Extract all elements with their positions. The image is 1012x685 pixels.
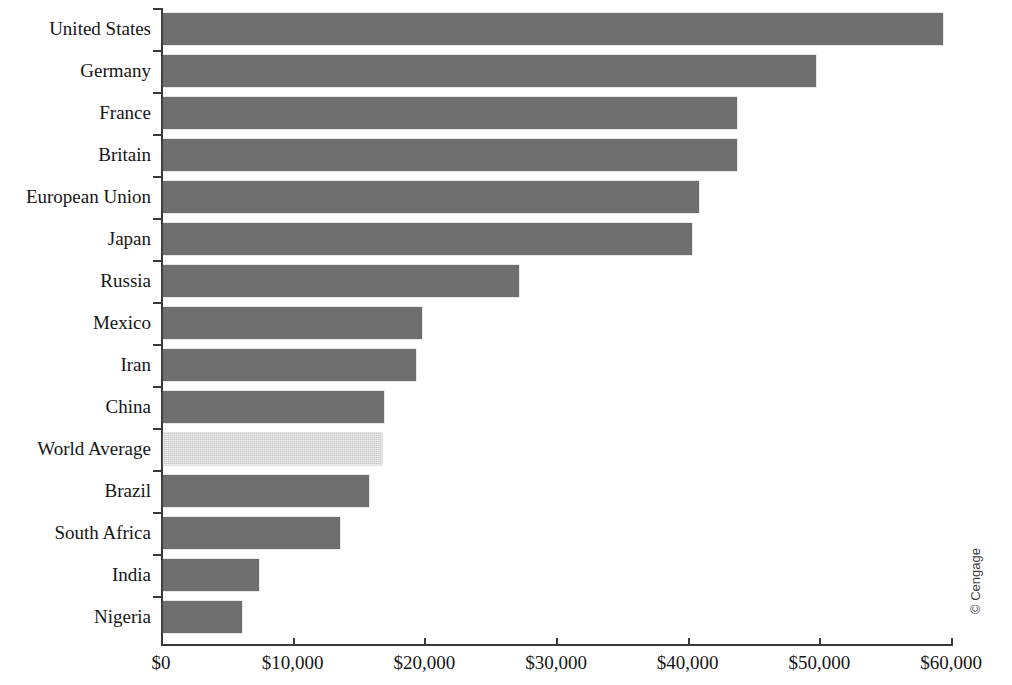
category-label: Britain [98,134,151,176]
bar-track [163,181,699,213]
bar-row: China [0,386,1012,428]
y-axis-tick [153,512,162,514]
bar [163,391,384,423]
category-label: Japan [108,218,151,260]
bar [163,559,259,591]
y-axis-tick [153,8,162,10]
bar-track [163,475,369,507]
category-label: Iran [120,344,151,386]
y-axis-tick [153,134,162,136]
category-label: Germany [80,50,151,92]
bar-track [163,517,340,549]
bar-track [163,391,384,423]
bar-track [163,223,692,255]
bar-track [163,55,816,87]
category-label: China [106,386,151,428]
category-label: European Union [26,176,151,218]
x-axis-tick-label: $10,000 [262,652,324,674]
y-axis-tick [153,554,162,556]
bar-row: Mexico [0,302,1012,344]
bar-track [163,97,737,129]
bar [163,55,816,87]
x-axis-tick-label: $20,000 [393,652,455,674]
x-axis-tick [556,638,558,646]
bar-row: Germany [0,50,1012,92]
copyright-credit: © Cengage [968,548,983,614]
bar [163,139,737,171]
chart-container: United StatesGermanyFranceBritainEuropea… [0,0,1012,685]
bar-track [163,559,259,591]
category-label: India [112,554,151,596]
bar [163,13,943,45]
bar-row: South Africa [0,512,1012,554]
bar [163,181,699,213]
bar-track [163,307,422,339]
y-axis-tick [153,218,162,220]
bar [163,223,692,255]
bar-track [163,601,242,633]
bar-row: India [0,554,1012,596]
bar-row: Nigeria [0,596,1012,638]
category-label: Brazil [105,470,151,512]
bar-row: European Union [0,176,1012,218]
bar [163,307,422,339]
bar-row: Japan [0,218,1012,260]
x-axis-tick [819,638,821,646]
bar-row: France [0,92,1012,134]
category-label: South Africa [54,512,151,554]
y-axis-tick [153,386,162,388]
bar [163,433,382,465]
x-axis-tick [161,638,163,646]
x-axis-tick [688,638,690,646]
bar [163,265,519,297]
y-axis-tick [153,596,162,598]
bar-row: Brazil [0,470,1012,512]
x-axis-tick [424,638,426,646]
category-label: United States [49,8,151,50]
bar [163,601,242,633]
x-axis-tick [293,638,295,646]
y-axis-tick [153,176,162,178]
y-axis-tick [153,428,162,430]
x-axis-tick-label: $50,000 [788,652,850,674]
bar-track [163,139,737,171]
bar-track [163,13,943,45]
x-axis-tick-label: $40,000 [657,652,719,674]
bar-row: Russia [0,260,1012,302]
bar-track [163,433,382,465]
x-axis-tick [951,638,953,646]
category-label: France [99,92,151,134]
x-axis-tick-label: $0 [152,652,171,674]
bar [163,97,737,129]
category-label: Nigeria [94,596,151,638]
y-axis-tick [153,344,162,346]
x-axis-tick-label: $30,000 [525,652,587,674]
bar-row: Britain [0,134,1012,176]
bar-track [163,265,519,297]
bar [163,517,340,549]
bar-row: United States [0,8,1012,50]
x-axis-ticks: $0$10,000$20,000$30,000$40,000$50,000$60… [0,638,1012,685]
y-axis-tick [153,470,162,472]
bar-row: Iran [0,344,1012,386]
bar-track [163,349,416,381]
category-label: Mexico [93,302,151,344]
y-axis-tick [153,260,162,262]
x-axis-tick-label: $60,000 [920,652,982,674]
y-axis-tick [153,92,162,94]
category-label: World Average [37,428,151,470]
plot-area: United StatesGermanyFranceBritainEuropea… [0,0,1012,685]
bar-rows: United StatesGermanyFranceBritainEuropea… [0,8,1012,638]
y-axis-tick [153,50,162,52]
bar [163,349,416,381]
bar-row: World Average [0,428,1012,470]
bar [163,475,369,507]
y-axis-tick [153,302,162,304]
category-label: Russia [100,260,151,302]
